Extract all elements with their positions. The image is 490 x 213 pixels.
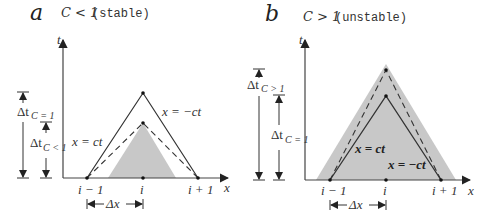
dt-outer-a: Δt	[17, 104, 29, 119]
dt-inner-b: Δt	[271, 127, 283, 142]
status-b: (unstable)	[335, 11, 407, 25]
tick-i-minus-1-b: i − 1	[321, 183, 346, 198]
dt-inner-sub-b: C = 1	[285, 134, 308, 145]
tick-i-a: i	[140, 182, 144, 197]
panel-b: b C > 1 (unstable) t x x = ct x = −ct i …	[247, 1, 474, 212]
tick-i-minus-1-a: i − 1	[78, 182, 103, 197]
shaded-domain-b	[316, 64, 456, 180]
status-a: (stable)	[92, 7, 150, 21]
t-axis-label-a: t	[57, 32, 61, 47]
t-axis-label-b: t	[299, 32, 303, 47]
dx-label-b: Δx	[348, 197, 363, 212]
x-axis-label-a: x	[223, 180, 230, 195]
panel-letter-a: a	[30, 0, 43, 25]
dt-inner-a: Δt	[30, 135, 42, 150]
line-label-right-b: x = −ct	[387, 157, 426, 172]
dx-label-a: Δx	[105, 196, 120, 211]
tick-i-plus-1-b: i + 1	[432, 183, 457, 198]
tick-i-plus-1-a: i + 1	[188, 182, 213, 197]
dt-inner-sub-a: C < 1	[43, 142, 66, 153]
line-label-left-b: x = ct	[354, 141, 385, 156]
dt-outer-sub-b: C > 1	[261, 83, 284, 94]
cfl-diagram: a C < 1 (stable) t x x = ct x = −ct i − …	[0, 0, 490, 213]
panel-letter-b: b	[265, 1, 279, 26]
line-label-left-a: x = ct	[71, 134, 103, 149]
tick-i-b: i	[383, 183, 387, 198]
dt-outer-sub-a: C = 1	[31, 110, 54, 121]
line-label-right-a: x = −ct	[161, 104, 202, 119]
x-axis-label-b: x	[467, 183, 474, 198]
dt-outer-b: Δt	[247, 77, 259, 92]
panel-a: a C < 1 (stable) t x x = ct x = −ct i − …	[17, 0, 230, 211]
